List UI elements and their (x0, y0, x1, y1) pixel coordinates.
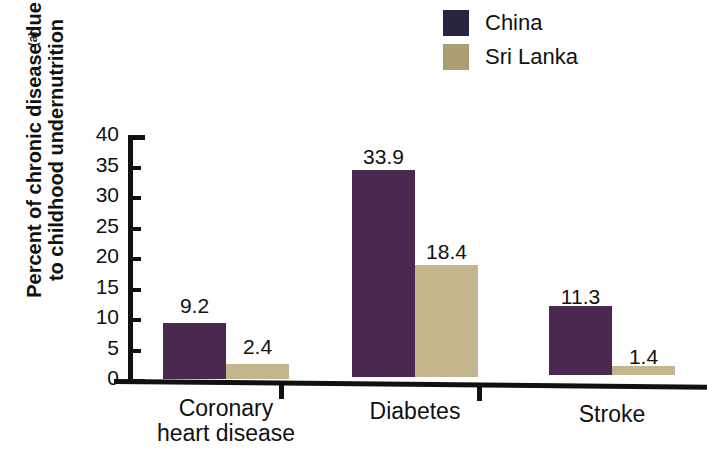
x-group-tick-1 (477, 385, 482, 401)
value-label-sri-lanka-1: 18.4 (426, 240, 467, 264)
value-label-china-1: 33.9 (363, 145, 404, 169)
category-label-2: Stroke (579, 402, 645, 427)
y-tick-10: 10 (128, 318, 141, 322)
legend-label-china: China (485, 12, 542, 34)
x-axis-baseline (114, 379, 707, 390)
legend-swatch-china (443, 10, 469, 36)
value-label-sri-lanka-0: 2.4 (243, 335, 272, 359)
bar-sri-lanka-1 (415, 265, 478, 377)
legend-item-sri-lanka: Sri Lanka (443, 40, 683, 74)
category-label-line1: Diabetes (370, 398, 461, 424)
y-tick-label-25: 25 (96, 213, 119, 237)
y-tick-label-35: 35 (96, 152, 119, 176)
y-tick-20: 20 (128, 257, 141, 261)
bar-sri-lanka-0 (226, 364, 289, 379)
y-axis-title-line2: to childhood undernutrition (45, 19, 67, 281)
legend-swatch-sri-lanka (443, 44, 469, 70)
y-tick-5: 5 (128, 349, 141, 353)
y-tick-25: 25 (128, 227, 141, 231)
plot-area: 0510152025303540 9.22.433.918.411.31.4 (128, 130, 693, 382)
y-tick-0: 0 (128, 379, 145, 384)
bar-china-2 (549, 306, 612, 375)
legend-label-sri-lanka: Sri Lanka (485, 46, 578, 68)
category-label-line1: Coronary (179, 395, 274, 421)
y-tick-label-20: 20 (96, 244, 119, 268)
y-tick-40: 40 (128, 135, 145, 140)
y-tick-label-40: 40 (96, 122, 119, 146)
bar-china-1 (352, 170, 415, 377)
value-label-china-0: 9.2 (180, 294, 209, 318)
y-tick-label-10: 10 (96, 305, 119, 329)
y-axis-title: Percent of chronic disease due to childh… (17, 0, 73, 300)
y-tick-label-15: 15 (96, 274, 119, 298)
category-label-line1: Stroke (579, 401, 645, 427)
y-axis-title-line1: Percent of chronic disease due (23, 2, 45, 298)
y-tick-35: 35 (128, 166, 141, 170)
bar-china-0 (163, 323, 226, 379)
chart-legend: China Sri Lanka (443, 6, 683, 74)
value-label-china-2: 11.3 (561, 285, 600, 309)
category-label-line2: heart disease (157, 420, 295, 446)
category-label-1: Diabetes (370, 399, 461, 424)
category-label-0: Coronaryheart disease (157, 396, 295, 447)
y-tick-30: 30 (128, 196, 141, 200)
legend-item-china: China (443, 6, 683, 40)
y-tick-label-30: 30 (96, 183, 119, 207)
y-tick-label-5: 5 (107, 335, 119, 359)
value-label-sri-lanka-2: 1.4 (629, 345, 658, 369)
y-tick-15: 15 (128, 288, 141, 292)
y-tick-label-0: 0 (107, 366, 119, 390)
